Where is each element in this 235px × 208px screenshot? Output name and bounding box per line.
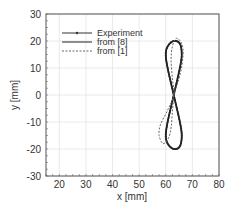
legend: Experimentfrom [8]from [1] — [62, 28, 143, 56]
x-tick-label: 30 — [80, 179, 92, 190]
y-tick-label: 10 — [30, 63, 42, 74]
x-tick-label: 60 — [160, 179, 172, 190]
x-tick-label: 20 — [54, 179, 66, 190]
y-tick-label: -30 — [27, 171, 42, 182]
legend-label: from [1] — [97, 46, 128, 56]
x-tick-label: 50 — [134, 179, 146, 190]
series-line — [159, 38, 183, 143]
grid — [46, 14, 219, 176]
y-tick-label: 20 — [30, 36, 42, 47]
x-tick-label: 40 — [107, 179, 119, 190]
y-tick-label: 30 — [30, 9, 42, 20]
x-axis-label: x [mm] — [117, 191, 147, 202]
chart: 20304050607080-30-20-100102030 Experimen… — [0, 0, 235, 208]
y-tick-label: -20 — [27, 144, 42, 155]
y-tick-label: -10 — [27, 117, 42, 128]
y-axis-label: y [mm] — [9, 80, 20, 110]
x-tick-label: 80 — [213, 179, 225, 190]
y-tick-label: 0 — [35, 90, 41, 101]
x-tick-label: 70 — [187, 179, 199, 190]
series-group — [159, 38, 183, 149]
